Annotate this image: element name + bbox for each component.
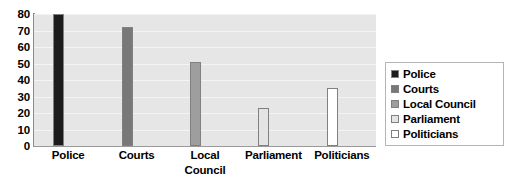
x-axis-label: Police (34, 148, 102, 163)
legend-item: Courts (391, 82, 499, 96)
x-axis-label: Politicians (308, 148, 376, 163)
x-axis-category-labels: PoliceCourtsLocal CouncilParliamentPolit… (34, 148, 376, 182)
plot-area (34, 14, 376, 146)
x-axis-label: Local Council (171, 148, 239, 178)
legend-swatch-icon (391, 85, 399, 93)
bar (258, 108, 269, 146)
legend-item: Parliament (391, 112, 499, 126)
legend-label: Parliament (403, 113, 460, 125)
y-axis-tick-label: 10 (0, 125, 30, 136)
legend-swatch-icon (391, 115, 399, 123)
legend-item: Local Council (391, 97, 499, 111)
legend-item: Police (391, 67, 499, 81)
bar (122, 27, 133, 146)
y-axis-tick-label: 60 (0, 42, 30, 53)
y-axis-tick-label: 20 (0, 108, 30, 119)
legend-swatch-icon (391, 70, 399, 78)
y-axis-tick-label: 70 (0, 26, 30, 37)
y-axis-tick-label: 0 (0, 141, 30, 152)
legend-label: Politicians (403, 128, 458, 140)
bar (190, 62, 201, 146)
gridline (34, 146, 376, 147)
legend-item: Politicians (391, 127, 499, 141)
bar (53, 14, 64, 146)
y-axis-tick-label: 80 (0, 9, 30, 20)
x-axis-label: Parliament (239, 148, 307, 163)
y-axis: 80706050403020100 (0, 9, 30, 147)
bar (327, 88, 338, 146)
legend-label: Police (403, 68, 436, 80)
y-axis-tick-label: 40 (0, 75, 30, 86)
bar-chart: 80706050403020100 PoliceCourtsLocal Coun… (0, 0, 509, 182)
y-axis-tick-label: 30 (0, 92, 30, 103)
bars-layer (34, 14, 376, 146)
legend-swatch-icon (391, 130, 399, 138)
legend-swatch-icon (391, 100, 399, 108)
x-axis-label: Courts (102, 148, 170, 163)
y-axis-tick-label: 50 (0, 59, 30, 70)
legend-label: Local Council (403, 98, 476, 110)
legend-label: Courts (403, 83, 439, 95)
legend: PoliceCourtsLocal CouncilParliamentPolit… (385, 62, 504, 146)
